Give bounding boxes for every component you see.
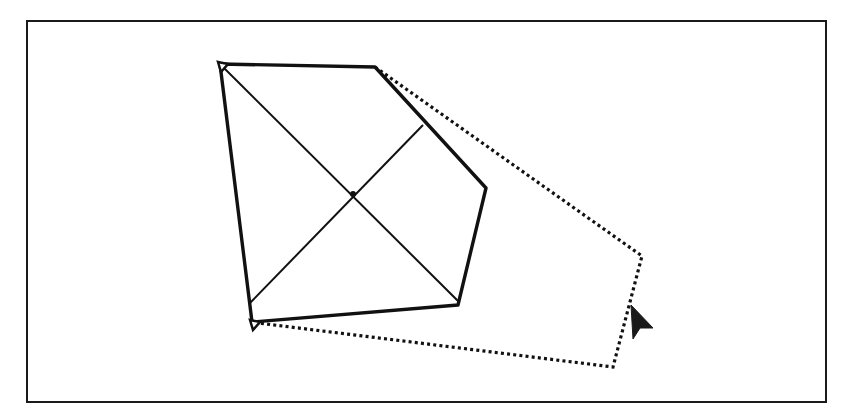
dotted-drag-outline (258, 67, 642, 367)
dotted-outline-path (258, 67, 642, 367)
cursor-arrow-shape (631, 305, 653, 339)
diagonal-line (224, 68, 458, 301)
center-point (350, 191, 356, 197)
pentagon-diagonals (224, 68, 458, 303)
diagonal-line (250, 125, 423, 303)
vertex-handle[interactable] (250, 320, 260, 330)
drawing-canvas[interactable] (0, 0, 848, 417)
arrow-pointer-icon (631, 305, 653, 339)
